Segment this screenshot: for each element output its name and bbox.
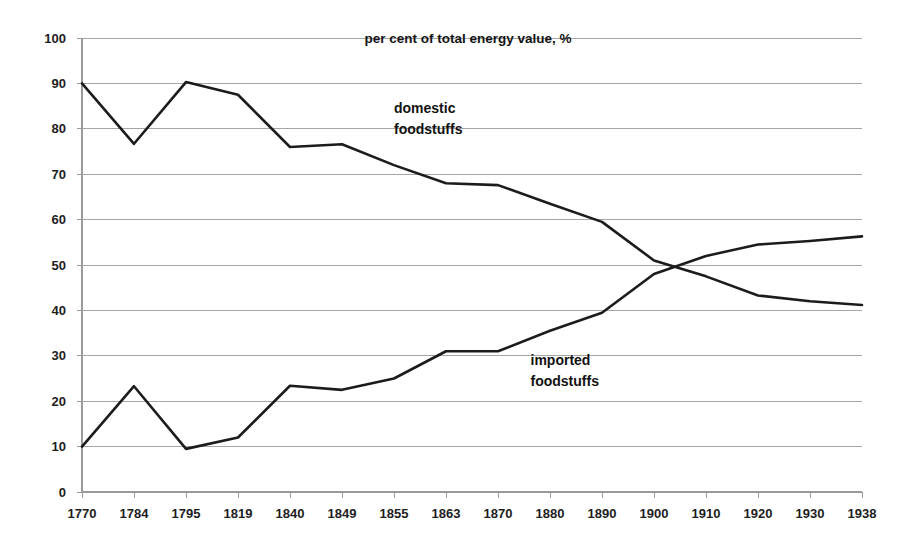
y-axis-tick-label: 80: [52, 121, 66, 136]
y-axis-tick-label: 60: [52, 212, 66, 227]
y-axis-tick-label: 70: [52, 167, 66, 182]
y-axis-tick-label: 100: [44, 31, 66, 46]
x-axis-tick-label: 1870: [484, 506, 513, 521]
x-axis-tick-label: 1863: [432, 506, 461, 521]
x-axis-tick-label: 1819: [224, 506, 253, 521]
x-axis-tick-label: 1920: [744, 506, 773, 521]
y-axis: [77, 38, 82, 492]
x-axis-tick-label: 1880: [536, 506, 565, 521]
y-axis-tick-label: 20: [52, 394, 66, 409]
x-axis-tick-label: 1784: [120, 506, 150, 521]
x-axis-tick-label: 1938: [848, 506, 877, 521]
y-axis-tick-label: 50: [52, 258, 66, 273]
y-axis-labels: 0102030405060708090100: [44, 31, 66, 500]
line-chart: 0102030405060708090100 17701784179518191…: [0, 0, 920, 550]
x-axis-tick-label: 1795: [172, 506, 201, 521]
chart-container: 0102030405060708090100 17701784179518191…: [0, 0, 920, 550]
y-axis-tick-label: 30: [52, 348, 66, 363]
x-axis-tick-label: 1855: [380, 506, 409, 521]
series-annotation-line1: imported: [531, 352, 591, 368]
series-line: [82, 236, 862, 448]
series-annotation-line2: foodstuffs: [394, 121, 463, 137]
x-axis-tick-label: 1900: [640, 506, 669, 521]
series-annotation-line2: foodstuffs: [531, 373, 600, 389]
x-axis-tick-label: 1910: [692, 506, 721, 521]
x-axis-tick-label: 1840: [276, 506, 305, 521]
series-line: [82, 82, 862, 305]
series-annotations: domesticfoodstuffsimportedfoodstuffs: [394, 100, 599, 389]
series-annotation-line1: domestic: [394, 100, 456, 116]
chart-title: per cent of total energy value, %: [365, 31, 572, 46]
y-axis-tick-label: 0: [59, 485, 66, 500]
y-axis-tick-label: 90: [52, 76, 66, 91]
x-axis-tick-label: 1849: [328, 506, 357, 521]
gridlines: [82, 38, 862, 492]
x-axis-labels: 1770178417951819184018491855186318701880…: [68, 506, 877, 521]
x-axis-tick-label: 1930: [796, 506, 825, 521]
x-axis-tick-label: 1890: [588, 506, 617, 521]
y-axis-tick-label: 40: [52, 303, 66, 318]
y-axis-tick-label: 10: [52, 439, 66, 454]
x-axis-ticks: [82, 492, 862, 498]
x-axis-tick-label: 1770: [68, 506, 97, 521]
